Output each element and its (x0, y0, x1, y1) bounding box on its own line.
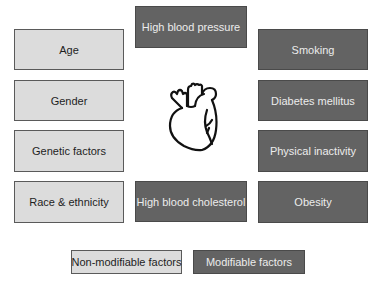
anatomical-heart-icon (162, 80, 224, 152)
factor-smoking: Smoking (258, 29, 368, 70)
factor-physical-inactivity: Physical inactivity (258, 130, 368, 172)
factor-gender: Gender (14, 80, 124, 121)
factor-high-blood-pressure: High blood pressure (135, 6, 247, 48)
factor-high-blood-cholesterol: High blood cholesterol (135, 181, 247, 222)
legend-non-modifiable: Non-modifiable factors (71, 250, 182, 274)
factor-genetic: Genetic factors (14, 130, 124, 172)
legend-modifiable: Modifiable factors (193, 250, 305, 274)
factor-obesity: Obesity (258, 181, 368, 223)
factor-age: Age (14, 29, 124, 70)
factor-race-ethnicity: Race & ethnicity (14, 181, 124, 223)
factor-diabetes: Diabetes mellitus (258, 80, 368, 121)
